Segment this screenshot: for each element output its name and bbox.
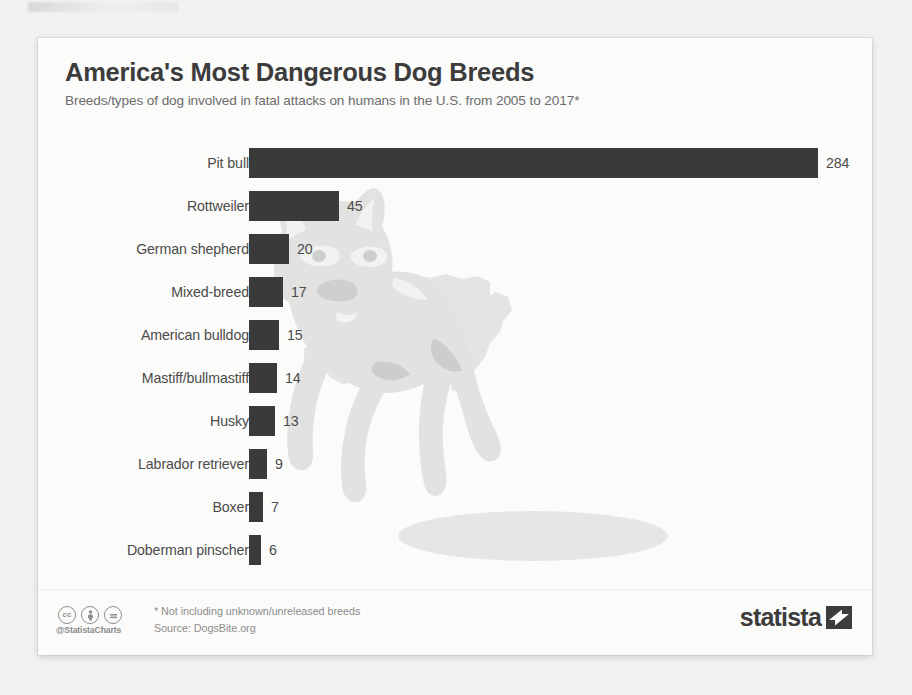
chart-row: Mastiff/bullmastiff 14 [38, 363, 872, 393]
cc-nd-equals-icon [104, 606, 122, 624]
bar-husky [249, 406, 275, 436]
bar-value-label: 9 [275, 449, 283, 479]
chart-header: America's Most Dangerous Dog Breeds Bree… [65, 59, 852, 108]
bar-labrador-retriever [249, 449, 267, 479]
bar-value-label: 45 [347, 191, 363, 221]
statista-handle: @StatistaCharts [56, 625, 121, 635]
bar-category-label: Boxer [38, 499, 249, 515]
chart-row: Boxer 7 [38, 492, 872, 522]
infographic-card: America's Most Dangerous Dog Breeds Bree… [38, 38, 872, 655]
bar-value-label: 6 [269, 535, 277, 565]
chart-row: American bulldog 15 [38, 320, 872, 350]
bar-category-label: Husky [38, 413, 249, 429]
bar-category-label: Mixed-breed [38, 284, 249, 300]
bar-german-shepherd [249, 234, 289, 264]
bar-mastiff-bullmastiff [249, 363, 277, 393]
statista-brand: statista [740, 605, 852, 630]
chart-row: Rottweiler 45 [38, 191, 872, 221]
bar-pit-bull [249, 148, 818, 178]
bar-value-label: 20 [297, 234, 313, 264]
bar-category-label: Doberman pinscher [38, 542, 249, 558]
bar-doberman-pinscher [249, 535, 261, 565]
chart-plot-area: Pit bull 284 Rottweiler 45 German shephe… [38, 148, 872, 588]
bar-value-label: 284 [826, 148, 849, 178]
chart-row: Husky 13 [38, 406, 872, 436]
bar-category-label: Mastiff/bullmastiff [38, 370, 249, 386]
bar-category-label: Labrador retriever [38, 456, 249, 472]
bar-category-label: American bulldog [38, 327, 249, 343]
bar-boxer [249, 492, 263, 522]
bar-value-label: 14 [285, 363, 301, 393]
chart-row: Doberman pinscher 6 [38, 535, 872, 565]
scan-artifact [28, 2, 178, 12]
footer-divider [38, 589, 872, 590]
chart-subtitle: Breeds/types of dog involved in fatal at… [65, 93, 852, 109]
bar-rottweiler [249, 191, 339, 221]
chart-row: Pit bull 284 [38, 148, 872, 178]
source-text: Source: DogsBite.org [154, 622, 256, 634]
footnote-text: * Not including unknown/unreleased breed… [154, 605, 360, 617]
statista-logo-mark-icon [826, 606, 852, 629]
person-glyph [86, 610, 95, 621]
chart-row: Mixed-breed 17 [38, 277, 872, 307]
equals-glyph [109, 611, 118, 620]
bar-category-label: German shepherd [38, 241, 249, 257]
bar-american-bulldog [249, 320, 279, 350]
bar-category-label: Rottweiler [38, 198, 249, 214]
creative-commons-icons: cc [58, 606, 122, 624]
bar-mixed-breed [249, 277, 283, 307]
page-title: America's Most Dangerous Dog Breeds [65, 59, 852, 86]
bar-category-label: Pit bull [38, 155, 249, 171]
chart-footer: cc @StatistaCharts * Not including unkno… [38, 589, 872, 655]
statista-wordmark: statista [740, 605, 821, 630]
cc-by-person-icon [81, 606, 99, 624]
bar-value-label: 7 [271, 492, 279, 522]
bar-value-label: 13 [283, 406, 299, 436]
chart-row: German shepherd 20 [38, 234, 872, 264]
cc-icon: cc [58, 606, 76, 624]
bar-value-label: 15 [287, 320, 303, 350]
chart-row: Labrador retriever 9 [38, 449, 872, 479]
bar-value-label: 17 [291, 277, 307, 307]
